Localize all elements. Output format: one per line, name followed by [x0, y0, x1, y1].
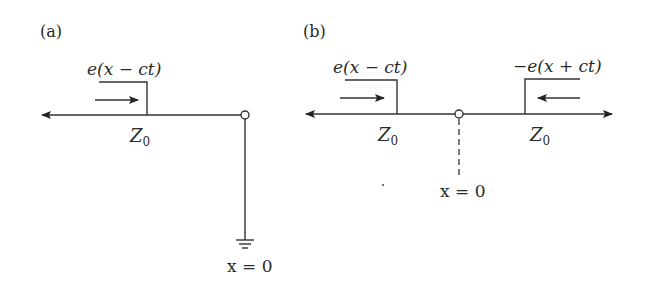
- panel-b-right-impedance-label: Z0: [529, 124, 550, 148]
- panel-a-position-label: x = 0: [227, 256, 272, 276]
- panel-b-incident-pulse-shape: [345, 80, 397, 114]
- panel-b: (b) e(x − ct) −e(x + ct) Z0 Z0 x = 0: [303, 22, 612, 201]
- panel-a-pulse-label: e(x − ct): [87, 59, 161, 79]
- transmission-line-diagram: (a) e(x − ct) Z0 x = 0 (b) e(x − ct): [0, 0, 647, 284]
- panel-b-node-circle: [455, 110, 463, 118]
- panel-b-incident-label: e(x − ct): [333, 57, 407, 77]
- ground-icon: [236, 240, 254, 248]
- panel-a-label: (a): [40, 22, 62, 41]
- panel-b-reflected-label: −e(x + ct): [513, 56, 602, 76]
- panel-a-impedance-label: Z0: [129, 125, 150, 149]
- panel-b-reflected-pulse-shape: [525, 79, 580, 114]
- panel-a-pulse-shape: [99, 82, 147, 115]
- panel-b-left-impedance-label: Z0: [377, 124, 398, 148]
- stray-dot: [382, 184, 384, 186]
- panel-a-node-circle: [241, 111, 249, 119]
- panel-b-position-label: x = 0: [440, 181, 485, 201]
- panel-a: (a) e(x − ct) Z0 x = 0: [40, 22, 272, 276]
- panel-b-label: (b): [303, 22, 326, 41]
